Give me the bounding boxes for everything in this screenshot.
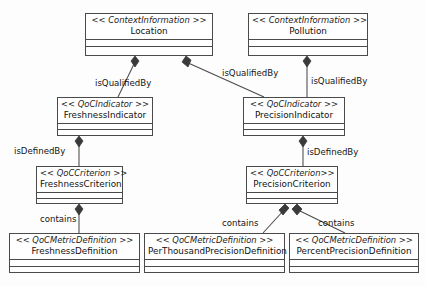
class-box-freshnessdefinition[interactable]: << QoCMetricDefinition >> FreshnessDefin… <box>9 233 140 273</box>
class-stereotype: << QoCMetricDefinition >> <box>13 236 136 246</box>
class-attributes-compartment <box>86 40 212 47</box>
class-box-percentprecisiondefinition[interactable]: << QoCMetricDefinition >> PercentPrecisi… <box>289 233 419 273</box>
class-stereotype: << QoCCriterion>> <box>250 169 334 179</box>
class-stereotype: << QoCMetricDefinition >> <box>293 236 415 246</box>
class-operations-compartment <box>86 47 212 53</box>
class-name: PercentPrecisionDefinition <box>293 246 415 256</box>
relation-label-isqualifiedby-pollution-precision: isQualifiedBy <box>311 76 367 86</box>
class-name: PrecisionCriterion <box>250 179 334 189</box>
composition-diamond-freshnessind-crit <box>75 136 83 147</box>
relation-label-contains-perthousand: contains <box>222 218 258 228</box>
class-name: PerThousandPrecisionDefinition <box>148 246 281 256</box>
class-operations-compartment <box>58 130 152 135</box>
class-name: FreshnessDefinition <box>13 246 136 256</box>
class-name-compartment: << QoCCriterion>> PrecisionCriterion <box>247 167 337 193</box>
class-operations-compartment <box>290 267 418 272</box>
class-operations-compartment <box>249 47 367 53</box>
class-box-perthousandprecisiondefinition[interactable]: << QoCMetricDefinition >> PerThousandPre… <box>144 233 285 273</box>
uml-class-diagram: << ContextInformation >> Location << Con… <box>0 0 425 286</box>
composition-diamond-precisioncrit-perthousand <box>279 204 289 215</box>
class-box-precisionindicator[interactable]: << QoCIndicator >> PrecisionIndicator <box>243 97 345 136</box>
class-name-compartment: << ContextInformation >> Pollution <box>249 14 367 40</box>
class-attributes-compartment <box>249 40 367 47</box>
relation-label-isdefinedby-precision: isDefinedBy <box>307 147 358 157</box>
class-operations-compartment <box>10 267 139 272</box>
composition-diamond-precisionind-crit <box>299 136 307 147</box>
class-name: FreshnessIndicator <box>61 110 149 120</box>
class-name: FreshnessCriterion <box>40 179 119 189</box>
class-stereotype: << QoCIndicator >> <box>247 100 341 110</box>
class-stereotype: << QoCMetricDefinition >> <box>148 236 281 246</box>
class-box-freshnessindicator[interactable]: << QoCIndicator >> FreshnessIndicator <box>57 97 153 136</box>
edge-precisioncriterion-perthousanddefinition <box>263 210 284 233</box>
class-name-compartment: << QoCIndicator >> FreshnessIndicator <box>58 98 152 124</box>
class-operations-compartment <box>37 199 122 203</box>
class-operations-compartment <box>145 267 284 272</box>
relation-label-isqualifiedby-location-precision: isQualifiedBy <box>222 68 278 78</box>
class-name: PrecisionIndicator <box>247 110 341 120</box>
class-operations-compartment <box>247 199 337 203</box>
relation-label-isdefinedby-freshness: isDefinedBy <box>14 146 65 156</box>
class-name-compartment: << QoCMetricDefinition >> PercentPrecisi… <box>290 234 418 260</box>
class-name-compartment: << QoCIndicator >> PrecisionIndicator <box>244 98 344 124</box>
relation-label-isqualifiedby-location-freshness: isQualifiedBy <box>95 78 151 88</box>
class-stereotype: << ContextInformation >> <box>89 16 209 26</box>
relation-label-contains-percent: contains <box>318 218 354 228</box>
class-name-compartment: << ContextInformation >> Location <box>86 14 212 40</box>
composition-diamond-pollution-precision <box>303 56 311 67</box>
relation-label-contains-freshness: contains <box>40 214 76 224</box>
class-stereotype: << QoCIndicator >> <box>61 100 149 110</box>
class-box-freshnesscriterion[interactable]: << QoCCriterion >> FreshnessCriterion <box>36 166 123 204</box>
class-box-precisioncriterion[interactable]: << QoCCriterion>> PrecisionCriterion <box>246 166 338 204</box>
class-operations-compartment <box>244 130 344 135</box>
composition-diamond-precisioncrit-percent <box>292 204 302 215</box>
class-name-compartment: << QoCMetricDefinition >> PerThousandPre… <box>145 234 284 260</box>
class-stereotype: << ContextInformation >> <box>252 16 364 26</box>
class-stereotype: << QoCCriterion >> <box>40 169 119 179</box>
class-name-compartment: << QoCCriterion >> FreshnessCriterion <box>37 167 122 193</box>
class-name: Location <box>89 26 209 36</box>
composition-diamond-location-precision <box>182 56 191 67</box>
class-box-location[interactable]: << ContextInformation >> Location <box>85 13 213 56</box>
class-name-compartment: << QoCMetricDefinition >> FreshnessDefin… <box>10 234 139 260</box>
composition-diamond-location-freshness <box>131 56 139 67</box>
class-box-pollution[interactable]: << ContextInformation >> Pollution <box>248 13 368 56</box>
class-name: Pollution <box>252 26 364 36</box>
